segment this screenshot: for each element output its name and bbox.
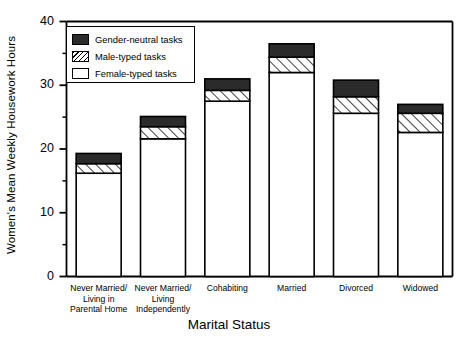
bar-stack [141,116,186,276]
bar-segment [334,113,379,276]
legend-label: Male-typed tasks [95,51,166,62]
legend-label: Gender-neutral tasks [95,34,183,45]
legend-swatch-dark-icon [72,34,89,45]
y-axis-tick-label: 0 [26,270,54,283]
bar-segment [398,104,443,113]
x-axis-title: Marital Status [0,317,458,332]
bar-segment [76,153,121,163]
bar-segment [398,113,443,132]
y-axis-tick-label: 30 [26,78,54,91]
bar-segment [205,79,250,90]
y-axis-tick-label: 40 [26,15,54,28]
bar-segment [334,80,379,97]
bar-segment [269,73,314,277]
bar-segment [76,164,121,174]
bar-segment [141,139,186,277]
bar-segment [398,132,443,276]
chart-container: Women's Mean Weekly Housework Hours Gend… [0,0,458,342]
bar-segment [141,127,186,139]
legend-item-male-typed: Male-typed tasks [72,48,189,64]
bar-segment [269,57,314,72]
y-axis-tick-label: 20 [26,142,54,155]
bar-stack [205,79,250,277]
legend-label: Female-typed tasks [95,68,177,79]
bar-segment [269,44,314,57]
bar-stack [398,104,443,276]
y-axis-tick-label: 10 [26,206,54,219]
bar-segment [205,90,250,101]
bar-segment [205,101,250,276]
x-axis-tick-label: Widowed [381,283,458,294]
bar-stack [334,80,379,276]
legend-item-gender-neutral: Gender-neutral tasks [72,31,189,47]
legend-swatch-hatch-icon [72,51,89,62]
legend: Gender-neutral tasks Male-typed tasks Fe… [66,26,195,83]
legend-swatch-white-icon [72,68,89,79]
bar-segment [76,173,121,276]
legend-item-female-typed: Female-typed tasks [72,65,189,81]
bar-segment [334,97,379,114]
bar-segment [141,116,186,126]
bar-stack [269,44,314,277]
bar-stack [76,153,121,276]
